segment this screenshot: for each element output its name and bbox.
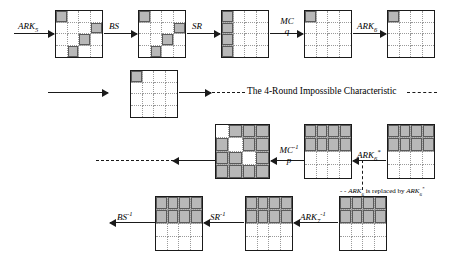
state-cell [56,34,68,46]
state-cell [234,46,246,58]
state-cell [317,138,329,151]
state-cell [305,46,317,58]
state-cell [328,165,340,178]
state-cell [400,23,412,35]
state-cell [56,46,68,58]
state-cell [168,237,180,250]
state-cell [79,34,91,46]
diagram-canvas: ARK5 BS SR MC q ARK6 The 4-Round Impossi… [0,0,459,256]
state-cell [257,46,269,58]
state-cell [281,197,293,210]
state-cell [423,138,435,151]
state-cell [388,165,400,178]
state-cell [229,165,242,178]
state-cell [79,46,91,58]
state-cell [375,237,387,250]
state-cell [411,11,423,23]
state-cell [234,23,246,35]
state-cell [411,46,423,58]
state-cell [305,152,317,165]
state-cell [143,106,155,118]
state-cell [423,165,435,178]
dashed-arrow-row3 [96,160,174,161]
state-cell [388,23,400,35]
label-mc-inverse-numerator: MC-1 [274,142,304,155]
state-cell [388,138,400,151]
state-cell [375,210,387,223]
label-mc-denominator: q [274,26,300,36]
arrowhead-icon [172,157,179,165]
state-cell [91,23,103,35]
state-cell [243,138,256,151]
state-cell [131,83,143,95]
state-cell [258,237,270,250]
state-cell [191,197,203,210]
state-cell [179,237,191,250]
state-cell [246,197,258,210]
state-cell [328,152,340,165]
state-cell [256,165,269,178]
label-sr-inverse: SR-1 [210,209,225,222]
state-cell [191,237,203,250]
state-cell [423,11,435,23]
state-after-sr [221,10,269,58]
state-cell [151,46,163,58]
state-cell [340,46,352,58]
arrow-bs [104,33,137,34]
state-cell [229,125,242,138]
state-cell [222,46,234,58]
arrowhead-icon [214,30,221,38]
state-after-ark6-star [387,124,435,179]
state-cell [328,46,340,58]
state-cell [222,34,234,46]
state-cell [56,11,68,23]
state-cell [328,11,340,23]
state-cell [156,224,168,237]
state-cell [411,152,423,165]
state-cell [257,34,269,46]
state-cell [154,94,166,106]
arrow-into-characteristic [48,92,108,93]
state-cell [229,152,242,165]
state-cell [340,210,352,223]
state-ark5-output [55,10,103,58]
state-cell [269,237,281,250]
state-cell [131,106,143,118]
state-cell [156,237,168,250]
state-cell [151,34,163,46]
state-cell [411,165,423,178]
label-mc-numerator: MC [274,16,300,26]
state-cell [305,125,317,138]
state-cell [246,224,258,237]
state-cell [400,125,412,138]
state-cell [156,210,168,223]
state-cell [400,165,412,178]
label-ark5: ARK5 [18,21,38,35]
state-cell [375,224,387,237]
state-before-mc-inverse [215,124,270,179]
state-cell [317,165,329,178]
state-cell [305,11,317,23]
state-cell [423,46,435,58]
state-cell [191,210,203,223]
state-cell [411,23,423,35]
state-cell [174,46,186,58]
state-cell [243,165,256,178]
state-after-ark6 [387,10,435,58]
state-cell [139,46,151,58]
arrowhead-icon [203,219,210,227]
state-cell [305,23,317,35]
state-cell [168,210,180,223]
footnote-dashes: - - [340,187,348,195]
state-cell [388,34,400,46]
state-cell [423,34,435,46]
state-cell [400,152,412,165]
label-mc: MC q [274,16,300,36]
state-cell [191,224,203,237]
state-cell [388,125,400,138]
state-cell [162,46,174,58]
state-cell [243,152,256,165]
state-cell [256,152,269,165]
state-cell [411,34,423,46]
state-cell [143,83,155,95]
